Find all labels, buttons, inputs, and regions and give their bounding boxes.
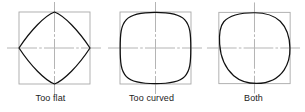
roundness-error-figure: Too flat Too curved Both (0, 0, 305, 112)
panel-both: Both (203, 0, 304, 112)
panel-both-drawing (203, 0, 304, 96)
panel-label: Too flat (0, 92, 101, 104)
panel-label: Both (203, 92, 304, 104)
panel-label: Too curved (101, 92, 202, 104)
panel-too-flat-drawing (0, 0, 101, 96)
panel-too-flat: Too flat (0, 0, 101, 112)
panel-too-curved: Too curved (101, 0, 202, 112)
panel-too-curved-drawing (101, 0, 202, 96)
